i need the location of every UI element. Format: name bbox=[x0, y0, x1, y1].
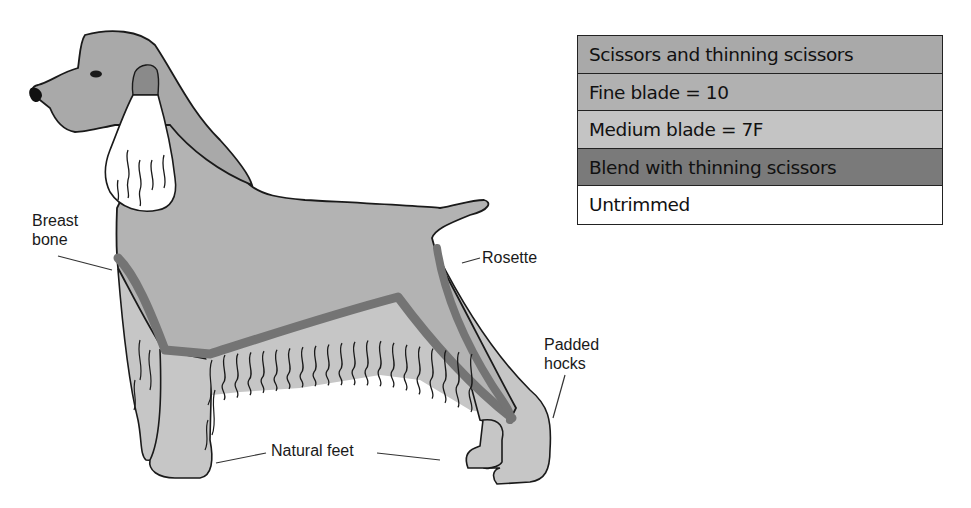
rosette-label: Rosette bbox=[482, 249, 537, 266]
natural-feet-leader-left bbox=[216, 453, 266, 463]
natural-feet-leader-right bbox=[377, 453, 440, 460]
natural-feet-label: Natural feet bbox=[271, 442, 354, 459]
padded-hocks-leader bbox=[553, 375, 565, 418]
legend-item-scissors: Scissors and thinning scissors bbox=[578, 36, 942, 74]
grooming-legend: Scissors and thinning scissors Fine blad… bbox=[577, 35, 943, 225]
ear-top-patch bbox=[132, 65, 158, 95]
padded-hocks-label: Padded hocks bbox=[544, 336, 604, 372]
hind-foot bbox=[466, 420, 503, 468]
legend-item-untrimmed: Untrimmed bbox=[578, 186, 942, 224]
legend-item-fine-blade: Fine blade = 10 bbox=[578, 74, 942, 112]
eye bbox=[90, 71, 102, 78]
rosette-leader bbox=[462, 258, 480, 263]
legend-item-medium-blade: Medium blade = 7F bbox=[578, 111, 942, 149]
breast-bone-leader bbox=[58, 256, 112, 270]
breast-bone-label: Breast bone bbox=[32, 212, 83, 248]
legend-item-blend: Blend with thinning scissors bbox=[578, 149, 942, 187]
